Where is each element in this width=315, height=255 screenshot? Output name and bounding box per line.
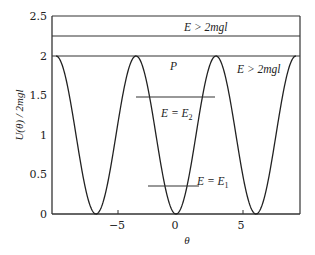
svg-text:1.5: 1.5 xyxy=(30,89,48,102)
svg-text:1: 1 xyxy=(40,129,47,142)
y-axis-label: U(θ) / 2mgl xyxy=(13,89,26,140)
y-tick-labels: 2.5 2 1.5 1 0.5 0 xyxy=(30,10,48,221)
annotation-top-energy: E > 2mgl xyxy=(183,21,228,34)
annotation-e2: E = E2 xyxy=(160,107,193,122)
svg-text:0: 0 xyxy=(172,219,179,232)
svg-text:2.5: 2.5 xyxy=(30,10,48,23)
x-tick-labels: −5 0 5 xyxy=(109,219,245,232)
potential-energy-chart: 2.5 2 1.5 1 0.5 0 −5 0 5 θ U(θ) / 2mgl E… xyxy=(0,0,315,255)
annotation-p: P xyxy=(169,60,177,72)
svg-text:0: 0 xyxy=(40,208,47,221)
x-axis-label: θ xyxy=(184,234,190,246)
annotation-e1: E = E1 xyxy=(196,175,229,190)
svg-text:0.5: 0.5 xyxy=(30,168,48,181)
potential-curve xyxy=(56,56,296,214)
svg-text:−5: −5 xyxy=(109,219,125,232)
annotation-right-energy: E > 2mgl xyxy=(236,63,281,76)
svg-text:2: 2 xyxy=(40,50,47,63)
svg-text:5: 5 xyxy=(238,219,245,232)
